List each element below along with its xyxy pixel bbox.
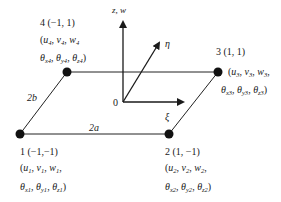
node-3-label: 3 (1, 1) [216,46,245,58]
edge-right [169,72,218,134]
node-3-translational-dofs: (u3, v3, w3, [228,66,270,78]
node-2-rotational-dofs: θx2, θy2, θz2) [165,181,211,193]
close-paren: ) [264,84,267,95]
line-end: , [59,162,62,173]
z-axis-label: z, w [112,4,126,16]
node-1-dot [16,130,25,139]
line-end: , [204,162,207,173]
node-1-label: 1 (−1,−1) [20,146,58,158]
node-4-translational-dofs: (u4, v4, w4 [40,34,79,46]
close-paren: ) [63,181,66,192]
dof-symbol: w [49,162,56,173]
node-4-rotational-dofs: θx4, θy4, θz4) [40,52,86,64]
node-1-rotational-dofs: θx1, θy1, θz1) [20,181,66,193]
node-3-dot [214,68,223,77]
dof-symbol: w [69,34,76,45]
node-2-dot [165,130,174,139]
xi-axis-label: ξ [165,111,169,123]
close-paren: ) [83,52,86,63]
node-1-translational-dofs: (u1, v1, w1, [20,162,62,174]
node-4-label: 4 (−1, 1) [40,17,75,29]
dof-symbol: w [257,66,264,77]
node-3-rotational-dofs: θx3, θy3, θz3) [221,84,267,96]
close-paren: ) [208,181,211,192]
origin-label: 0 [113,97,118,109]
node-2-label: 2 (1, −1) [165,146,200,158]
dimension-2a-label: 2a [89,122,99,134]
dof-subscript: 4 [76,39,79,46]
node-2-translational-dofs: (u2, v2, w2, [165,162,207,174]
plate-element-diagram: z, w η ξ 0 2b 2a 1 (−1,−1) (u1, v1, w1, … [0,0,281,202]
node-4-dot [63,68,72,77]
dimension-2b-label: 2b [27,92,37,104]
dof-symbol: w [194,162,201,173]
eta-axis-label: η [165,38,170,50]
line-end: , [267,66,270,77]
